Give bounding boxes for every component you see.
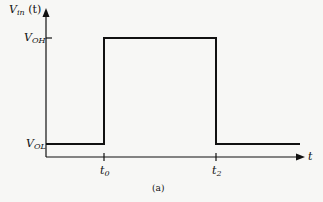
x-axis-arrow-icon bbox=[296, 154, 305, 161]
t0-label: t0 bbox=[100, 165, 110, 178]
waveform-plot bbox=[0, 0, 323, 202]
voh-label: VOH bbox=[24, 32, 46, 45]
t2-label: t2 bbox=[212, 165, 222, 178]
vol-label: VOL bbox=[26, 138, 46, 151]
y-axis-arrow-icon bbox=[43, 8, 50, 17]
x-axis-label: t bbox=[308, 151, 312, 162]
figure-caption: (a) bbox=[152, 183, 164, 193]
pulse-waveform bbox=[46, 38, 300, 144]
y-axis-label: Vin (t) bbox=[9, 4, 41, 17]
